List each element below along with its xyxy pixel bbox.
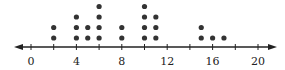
left-arrow-icon <box>14 44 23 50</box>
data-dot <box>119 25 124 30</box>
data-dot <box>74 14 79 19</box>
tick-label: 20 <box>251 55 265 68</box>
data-dot <box>74 35 79 40</box>
data-dot <box>153 14 158 19</box>
data-dot <box>97 14 102 19</box>
axis-tick-labels: 048121620 <box>28 55 266 68</box>
data-dot <box>97 25 102 30</box>
data-dot <box>199 35 204 40</box>
data-dots <box>51 4 226 41</box>
tick-label: 12 <box>160 55 174 68</box>
data-dot <box>142 35 147 40</box>
data-dot <box>153 35 158 40</box>
data-dot <box>199 25 204 30</box>
data-dot <box>210 35 215 40</box>
data-dot <box>221 35 226 40</box>
data-dot <box>74 25 79 30</box>
data-dot <box>119 35 124 40</box>
data-dot <box>97 4 102 9</box>
tick-label: 8 <box>118 55 125 68</box>
data-dot <box>142 14 147 19</box>
tick-label: 4 <box>73 55 80 68</box>
data-dot <box>51 25 56 30</box>
data-dot <box>142 4 147 9</box>
data-dot <box>97 35 102 40</box>
right-arrow-icon <box>268 44 277 50</box>
dot-plot: 048121620 <box>0 0 285 70</box>
data-dot <box>85 35 90 40</box>
tick-label: 0 <box>28 55 35 68</box>
tick-label: 16 <box>206 55 220 68</box>
data-dot <box>51 35 56 40</box>
data-dot <box>142 25 147 30</box>
data-dot <box>85 25 90 30</box>
data-dot <box>153 25 158 30</box>
